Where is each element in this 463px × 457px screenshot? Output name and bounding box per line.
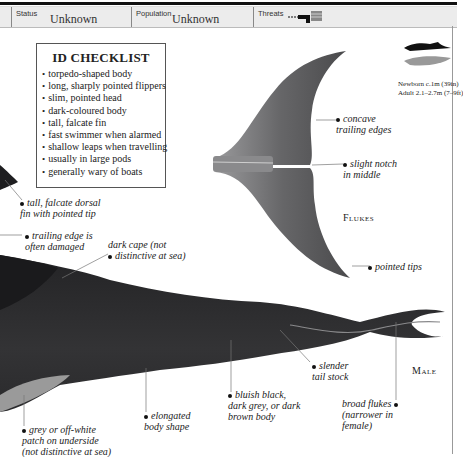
annotation-concave-edges: concave trailing edges bbox=[336, 113, 391, 135]
checklist-item: fast swimmer when alarmed bbox=[42, 129, 165, 141]
checklist-item: generally wary of boats bbox=[42, 166, 165, 178]
checklist-item: usually in large pods bbox=[42, 153, 165, 165]
annotation-slight-notch: slight notch in middle bbox=[343, 158, 397, 180]
annotation-elongated: elongated body shape bbox=[144, 410, 190, 432]
checklist-item: tall, falcate fin bbox=[42, 117, 165, 129]
checklist-item: shallow leaps when travelling bbox=[42, 141, 165, 153]
annotation-tail-stock: slender tail stock bbox=[312, 360, 348, 382]
body-drawing bbox=[0, 255, 445, 412]
annotation-broad-flukes: broad flukes (narrower in female) bbox=[342, 398, 401, 431]
checklist-title: ID CHECKLIST bbox=[37, 50, 165, 66]
annotation-trailing-edge: trailing edge is often damaged bbox=[25, 230, 93, 252]
male-label: Male bbox=[412, 365, 437, 376]
dolphin-silhouette-icon bbox=[404, 56, 451, 65]
checklist-item: long, sharply pointed flippers bbox=[42, 80, 165, 92]
adult-size: Adult 2.1–2.7m (7–9ft) bbox=[398, 89, 463, 98]
annotation-dorsal-fin: tall, falcate dorsal fin with pointed ti… bbox=[20, 197, 101, 219]
checklist-items: torpedo-shaped body long, sharply pointe… bbox=[37, 68, 165, 178]
swimmer-silhouette-icon bbox=[404, 42, 451, 51]
checklist-item: torpedo-shaped body bbox=[42, 68, 165, 80]
checklist-item: slim, pointed head bbox=[42, 92, 165, 104]
dorsal-fin bbox=[0, 165, 18, 190]
flukes-label: Flukes bbox=[343, 212, 374, 223]
annotation-underside-patch: grey or off-white patch on underside (no… bbox=[22, 424, 111, 457]
id-checklist: ID CHECKLIST torpedo-shaped body long, s… bbox=[36, 43, 166, 188]
size-info: Newborn c.1m (39in) Adult 2.1–2.7m (7–9f… bbox=[398, 80, 463, 98]
annotation-pointed-tips: pointed tips bbox=[368, 261, 422, 272]
annotation-body-colour: bluish black, dark grey, or dark brown b… bbox=[228, 389, 300, 422]
newborn-size: Newborn c.1m (39in) bbox=[398, 80, 463, 89]
annotation-dark-cape: dark cape (not distinctive at sea) bbox=[108, 239, 186, 261]
checklist-item: dark-coloured body bbox=[42, 105, 165, 117]
